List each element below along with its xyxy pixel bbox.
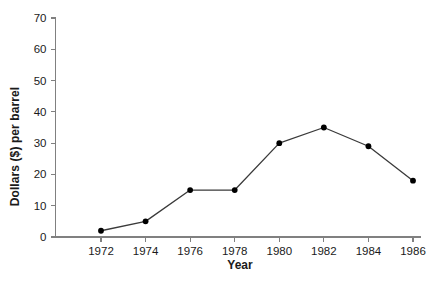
data-series-line [101, 128, 413, 231]
data-point [366, 143, 372, 149]
y-tick-label: 40 [34, 106, 47, 118]
line-chart: Dollars ($) per barrel Year 010203040506… [0, 0, 440, 281]
data-point [143, 218, 149, 224]
y-tick-label: 30 [34, 137, 47, 149]
x-tick-label: 1986 [400, 245, 426, 257]
y-tick-mark-group [51, 18, 56, 237]
data-point [187, 187, 193, 193]
data-point [321, 125, 327, 131]
x-tick-label: 1978 [222, 245, 248, 257]
x-tick-label: 1980 [266, 245, 292, 257]
data-point [98, 228, 104, 234]
plot-area: 010203040506070 197219741976197819801982… [0, 0, 440, 281]
x-tick-label: 1972 [88, 245, 114, 257]
y-tick-label: 60 [34, 43, 47, 55]
x-tick-label: 1976 [177, 245, 203, 257]
data-point [276, 140, 282, 146]
data-point [410, 178, 416, 184]
y-tick-label: 50 [34, 75, 47, 87]
x-tick-label-group: 19721974197619781980198219841986 [88, 245, 426, 257]
y-tick-label: 20 [34, 168, 47, 180]
x-tick-label: 1984 [356, 245, 382, 257]
x-tick-label: 1974 [133, 245, 159, 257]
data-point-group [98, 125, 416, 234]
x-tick-mark-group [101, 237, 413, 242]
y-tick-label: 70 [34, 12, 47, 24]
data-point [232, 187, 238, 193]
y-tick-label: 0 [40, 231, 46, 243]
y-tick-label: 10 [34, 200, 47, 212]
y-tick-label-group: 010203040506070 [34, 12, 47, 243]
x-tick-label: 1982 [311, 245, 337, 257]
